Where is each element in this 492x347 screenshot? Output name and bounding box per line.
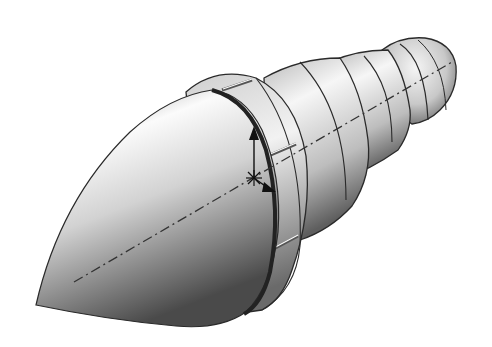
ogive-nose	[36, 90, 279, 327]
cad-model-drawing	[0, 0, 492, 347]
cad-viewport	[0, 0, 492, 347]
